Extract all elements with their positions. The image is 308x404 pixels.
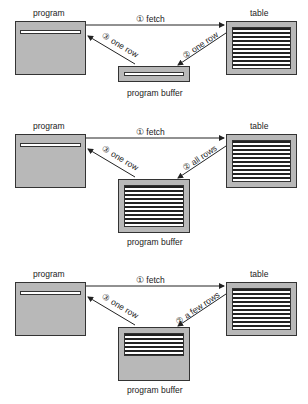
- panel-fetch-few-rows: program table program buffer ① fetch ② a…: [0, 261, 308, 404]
- fetch-label: ① fetch: [136, 275, 165, 285]
- fetch-label: ① fetch: [136, 14, 165, 24]
- panel-fetch-all-rows: program table program buffer ① fetch ② a…: [0, 113, 308, 253]
- fetch-label: ① fetch: [136, 127, 165, 137]
- panel-fetch-one-row: program table program buffer ① fetch ② o…: [0, 0, 308, 130]
